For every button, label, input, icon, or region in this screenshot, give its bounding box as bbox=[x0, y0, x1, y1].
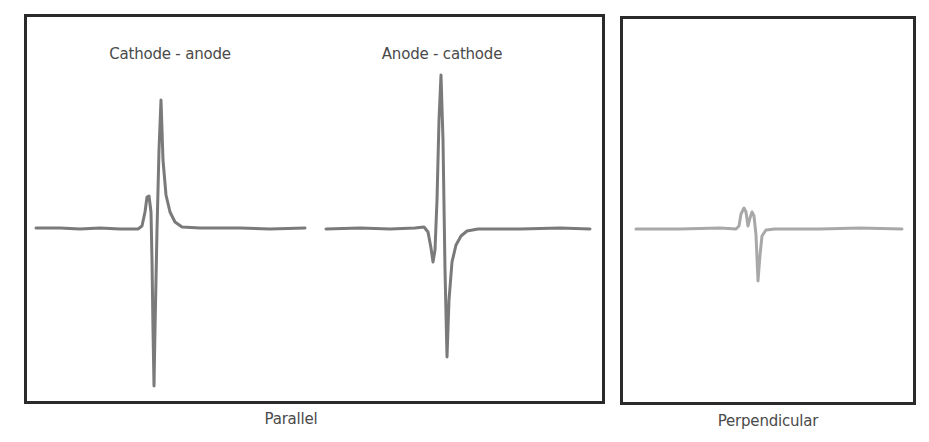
trace-label-cathode-anode: Cathode - anode bbox=[109, 45, 231, 63]
caption-parallel: Parallel bbox=[264, 410, 317, 428]
perpendicular-waveform bbox=[636, 208, 902, 281]
anode-cathode-waveform bbox=[326, 75, 590, 357]
caption-perpendicular: Perpendicular bbox=[718, 412, 819, 430]
waveform-traces bbox=[0, 0, 929, 442]
trace-label-anode-cathode: Anode - cathode bbox=[382, 45, 502, 63]
cathode-anode-waveform bbox=[36, 100, 305, 386]
